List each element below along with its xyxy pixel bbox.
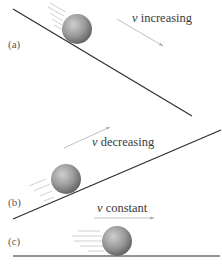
ball-b [51, 164, 81, 194]
panel-label-b: (b) [8, 196, 21, 209]
motion-lines-b [29, 179, 54, 201]
velocity-label-c: v constant [97, 201, 148, 215]
ball-c [102, 226, 132, 256]
panel-a: v increasing (a) [8, 3, 193, 116]
panel-label-c: (c) [8, 235, 21, 248]
velocity-label-b: v decreasing [92, 135, 155, 149]
ball-a [62, 14, 92, 44]
motion-lines-c [72, 231, 104, 251]
rolling-ball-diagram: v increasing (a) v decreasing (b) [0, 0, 222, 265]
panel-c: v constant (c) [8, 201, 220, 256]
incline-surface-a [13, 9, 192, 116]
panel-label-a: (a) [8, 38, 21, 51]
velocity-label-a: v increasing [132, 11, 193, 25]
